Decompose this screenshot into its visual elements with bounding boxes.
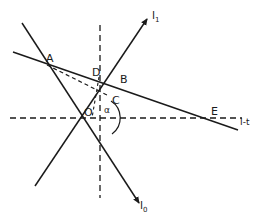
line-label-l1-sub: 1 bbox=[155, 16, 159, 24]
point-label-C: C bbox=[112, 95, 120, 106]
axis-label-I-t: I-t bbox=[240, 118, 249, 127]
line-label-l0-sub: 0 bbox=[143, 206, 147, 214]
geometry-diagram bbox=[0, 0, 264, 221]
line-label-l0: l0 bbox=[140, 200, 148, 211]
angle-label-alpha: α bbox=[104, 106, 110, 115]
line-l0 bbox=[22, 23, 139, 203]
point-label-E: E bbox=[211, 106, 218, 117]
point-label-B: B bbox=[120, 74, 128, 85]
line-label-l1: l1 bbox=[152, 10, 160, 21]
point-label-D: D bbox=[92, 67, 100, 78]
line-l1 bbox=[35, 19, 147, 186]
dashed-DO bbox=[92, 77, 99, 118]
point-label-A: A bbox=[46, 53, 54, 64]
point-label-O: O bbox=[84, 107, 93, 118]
